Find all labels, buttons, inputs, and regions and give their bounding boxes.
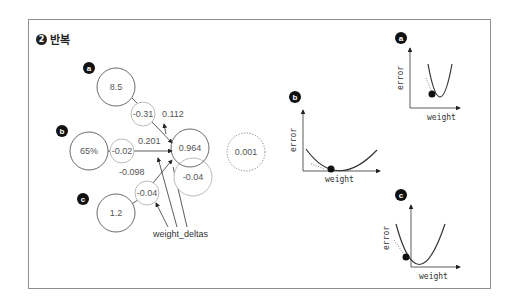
weight-delta-c: -0.04 <box>137 188 158 198</box>
weight-deltas-label: weight_deltas <box>152 229 209 239</box>
plot-a-xlabel: weight <box>427 113 456 122</box>
input-a-value: 8.5 <box>110 82 123 92</box>
svg-text:c: c <box>399 191 404 200</box>
badge-c: c <box>81 195 86 204</box>
badge-b: b <box>60 127 65 136</box>
weight-a-value: 0.112 <box>162 109 184 119</box>
delta-value: -0.04 <box>183 172 204 182</box>
node-a: a 8.5 -0.31 0.112 <box>83 62 184 126</box>
plot-b: b error weight <box>289 91 380 184</box>
plot-c-ylabel: error <box>382 226 391 250</box>
plot-b-xlabel: weight <box>325 175 354 184</box>
svg-text:b: b <box>293 93 298 102</box>
error-value: 0.001 <box>235 147 258 157</box>
plot-c: c error weight <box>382 189 460 281</box>
svg-text:a: a <box>399 34 404 43</box>
plot-a: a error weight <box>395 32 460 122</box>
badge-a: a <box>87 64 92 73</box>
weight-delta-a: -0.31 <box>133 109 154 119</box>
weight-delta-b: -0.02 <box>112 146 133 156</box>
plot-c-xlabel: weight <box>419 272 448 281</box>
plot-a-ylabel: error <box>396 66 405 90</box>
network-diagram: a 8.5 -0.31 0.112 b 65% -0.02 0.201 c 1.… <box>0 0 520 307</box>
node-b: b 65% -0.02 0.201 <box>56 125 161 170</box>
node-c: c 1.2 -0.04 -0.098 <box>77 167 159 232</box>
input-b-value: 65% <box>80 146 98 156</box>
prediction-value: 0.964 <box>179 143 202 153</box>
output-node: -0.04 0.964 0.001 <box>171 129 265 196</box>
weight-b-value: 0.201 <box>138 136 161 146</box>
input-c-value: 1.2 <box>110 208 123 218</box>
weight-c-value: -0.098 <box>119 167 145 177</box>
plot-b-ylabel: error <box>289 128 298 152</box>
